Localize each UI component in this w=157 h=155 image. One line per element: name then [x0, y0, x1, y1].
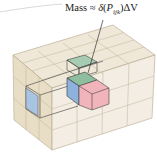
- annotation-prefix: Mass ≈: [65, 2, 98, 13]
- decorative-curve: [0, 4, 62, 12]
- mass-annotation: Mass ≈ δ(Pijk)ΔV: [65, 2, 138, 16]
- annotation-subscript: ijk: [113, 8, 120, 16]
- annotation-volume: ΔV: [124, 2, 138, 13]
- partitioned-solid-diagram: [0, 0, 157, 155]
